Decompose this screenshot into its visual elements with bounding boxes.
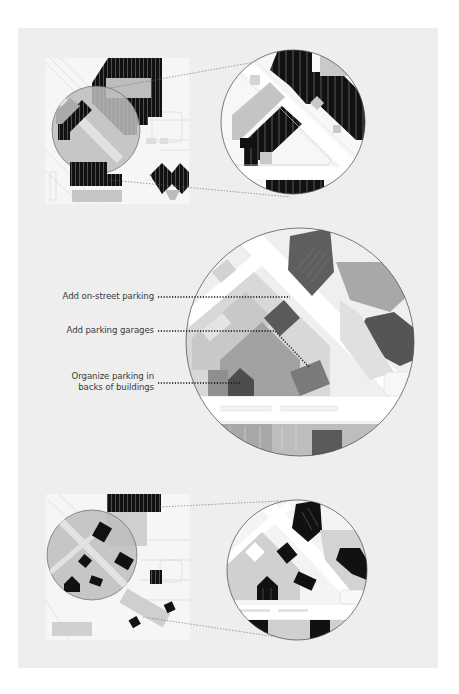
top-map-thumbnail xyxy=(45,58,189,204)
diagram-canvas xyxy=(0,0,459,694)
label-on-street-parking: Add on-street parking xyxy=(40,291,154,302)
label-organize-parking-line2: backs of buildings xyxy=(40,382,154,393)
bottom-magnified-view xyxy=(227,500,367,640)
middle-magnified-view xyxy=(186,228,420,464)
label-organize-parking: Organize parking in backs of buildings xyxy=(40,371,154,393)
bottom-map-thumbnail xyxy=(46,494,190,640)
top-magnified-view xyxy=(221,50,366,200)
label-parking-garages: Add parking garages xyxy=(40,325,154,336)
label-organize-parking-line1: Organize parking in xyxy=(40,371,154,382)
